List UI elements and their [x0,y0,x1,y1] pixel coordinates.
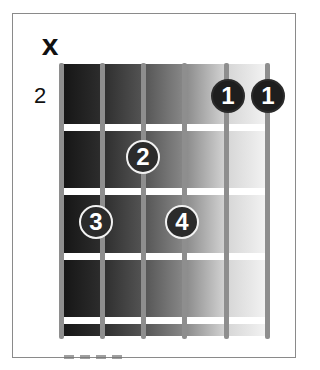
start-fret-label: 2 [34,85,46,107]
cropped-text-artifact [64,355,122,359]
finger-dot-1: 1 [211,79,245,113]
muted-string-marker: x [42,30,59,60]
finger-dot-1: 1 [251,79,285,113]
finger-dot-3: 3 [79,205,113,239]
string-3 [182,63,187,339]
fret-line [62,188,268,195]
finger-dot-4: 4 [165,205,199,239]
string-4 [141,63,146,339]
fret-line [62,317,268,324]
string-5 [100,63,105,339]
string-6 [59,63,64,339]
finger-dot-2: 2 [126,140,160,174]
fret-line [62,253,268,260]
fret-line [62,124,268,131]
